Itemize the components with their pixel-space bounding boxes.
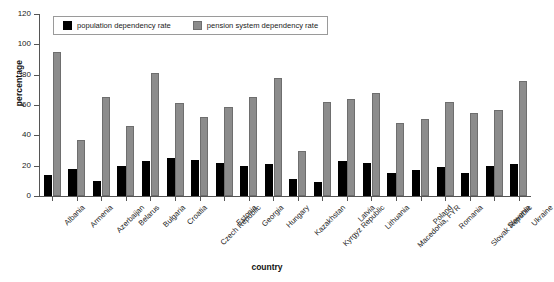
x-tick-mark (175, 197, 176, 201)
x-tick-mark (224, 197, 225, 201)
x-tick-mark (519, 197, 520, 201)
bar-population-dependency (314, 182, 322, 196)
y-tick-mark (34, 196, 39, 197)
x-tick-mark (126, 197, 127, 201)
y-tick-label: 120 (5, 9, 31, 18)
y-tick-label: 100 (5, 39, 31, 48)
x-tick-mark (249, 197, 250, 201)
y-tick-mark (34, 105, 39, 106)
x-tick-mark (200, 197, 201, 201)
bar-pension-dependency (77, 140, 85, 196)
x-tick-mark (347, 197, 348, 201)
bar-pension-dependency (249, 97, 257, 196)
x-tick-mark (421, 197, 422, 201)
bar-pension-dependency (175, 103, 183, 196)
bar-pension-dependency (519, 81, 527, 196)
bar-pension-dependency (53, 52, 61, 196)
y-tick-label: 20 (5, 161, 31, 170)
bar-pension-dependency (274, 78, 282, 196)
bar-pension-dependency (396, 123, 404, 196)
bar-pension-dependency (372, 93, 380, 196)
bar-pension-dependency (224, 107, 232, 196)
x-tick-label: Croatia (185, 203, 209, 227)
legend-label: pension system dependency rate (207, 21, 318, 30)
bar-population-dependency (412, 170, 420, 196)
y-tick-label: 40 (5, 130, 31, 139)
x-axis-line (39, 196, 531, 197)
x-tick-label: Ukraine (529, 203, 554, 228)
y-tick-mark (34, 135, 39, 136)
legend-swatch-pension-icon (193, 21, 202, 30)
plot-area (40, 14, 531, 196)
bar-population-dependency (363, 163, 371, 196)
bar-pension-dependency (421, 119, 429, 196)
x-axis-title: country (0, 262, 534, 272)
x-tick-label: Lithuania (383, 203, 411, 231)
bar-population-dependency (510, 164, 518, 196)
bar-population-dependency (338, 161, 346, 196)
bar-pension-dependency (200, 117, 208, 196)
legend-entry: population dependency rate (63, 21, 171, 30)
bar-population-dependency (265, 164, 273, 196)
bar-pension-dependency (323, 102, 331, 196)
x-tick-mark (150, 197, 151, 201)
bar-population-dependency (44, 175, 52, 196)
bar-population-dependency (289, 179, 297, 196)
bar-pension-dependency (102, 97, 110, 196)
x-tick-mark (445, 197, 446, 201)
bar-pension-dependency (126, 126, 134, 196)
bar-pension-dependency (494, 110, 502, 196)
x-tick-label: Armenia (88, 203, 114, 229)
legend-label: population dependency rate (77, 21, 171, 30)
x-tick-label: Hungary (285, 203, 312, 230)
bar-pension-dependency (151, 73, 159, 196)
bar-population-dependency (461, 173, 469, 196)
x-tick-mark (298, 197, 299, 201)
bar-population-dependency (167, 158, 175, 196)
x-tick-mark (371, 197, 372, 201)
legend-entry: pension system dependency rate (193, 21, 318, 30)
chart-legend: population dependency ratepension system… (53, 16, 328, 35)
x-tick-mark (470, 197, 471, 201)
x-tick-label: Georgia (260, 203, 285, 228)
bar-pension-dependency (445, 102, 453, 196)
x-tick-mark (52, 197, 53, 201)
x-tick-label: Kazakhstan (312, 203, 346, 237)
x-tick-mark (396, 197, 397, 201)
bar-population-dependency (142, 161, 150, 196)
legend-swatch-population-icon (63, 21, 72, 30)
bar-population-dependency (191, 160, 199, 196)
y-tick-label: 60 (5, 100, 31, 109)
bar-pension-dependency (347, 99, 355, 196)
y-tick-label: 80 (5, 70, 31, 79)
y-tick-label: 0 (5, 191, 31, 200)
bar-population-dependency (216, 163, 224, 196)
y-tick-mark (34, 75, 39, 76)
bar-population-dependency (117, 166, 125, 196)
x-tick-label: Albania (63, 203, 87, 227)
y-tick-mark (34, 44, 39, 45)
bar-pension-dependency (298, 151, 306, 197)
x-tick-label: Bulgaria (162, 203, 188, 229)
x-tick-label: Macedonia, FYR (416, 203, 462, 249)
x-tick-mark (494, 197, 495, 201)
bar-population-dependency (387, 173, 395, 196)
bar-population-dependency (486, 166, 494, 196)
y-tick-mark (34, 14, 39, 15)
bar-pension-dependency (470, 113, 478, 196)
bar-population-dependency (240, 166, 248, 196)
bar-population-dependency (93, 181, 101, 196)
x-tick-mark (322, 197, 323, 201)
bar-population-dependency (437, 167, 445, 196)
x-tick-label: Slovenia (506, 203, 533, 230)
x-tick-mark (101, 197, 102, 201)
x-tick-mark (77, 197, 78, 201)
bar-population-dependency (68, 169, 76, 196)
y-tick-mark (34, 166, 39, 167)
x-tick-mark (273, 197, 274, 201)
